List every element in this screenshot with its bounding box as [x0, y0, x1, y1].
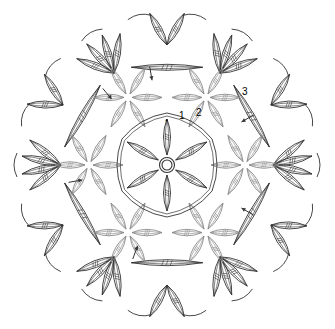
round-3-petal [213, 257, 221, 297]
center-ring [160, 158, 175, 173]
round-3-petal [65, 183, 101, 245]
crochet-diagram: 1 2 3 * [0, 0, 335, 329]
round-3-petal [30, 140, 61, 165]
round-2-petal [189, 236, 204, 262]
round-3-chain-loop [317, 153, 320, 177]
round-3-chain-loop [21, 204, 29, 227]
round-1-petal [127, 170, 158, 188]
round-2-petal [228, 168, 243, 194]
round-3-petal [131, 64, 202, 70]
round-3-chain-loop [304, 104, 312, 127]
round-2-petal [228, 136, 243, 162]
round-2-petal [91, 136, 106, 162]
start-arrow-icon [241, 208, 253, 215]
round-3-petal [102, 257, 114, 295]
round-3-joining-fan [131, 260, 202, 317]
round-3-chain-loop [183, 14, 207, 20]
round-3-chain-loop [45, 58, 61, 76]
round-3-petal [27, 101, 63, 108]
round-3-petal [65, 85, 101, 147]
round-2-petal [111, 203, 126, 229]
round-2-petal [210, 94, 240, 101]
round-3-petal [131, 260, 202, 266]
round-3-chain-loop [21, 104, 29, 127]
round-label-2: 2 [196, 107, 202, 118]
round-3-petal [102, 35, 114, 73]
start-arrow-icon [241, 115, 253, 122]
round-3-joining-fan [27, 74, 100, 147]
start-marker: * [165, 117, 168, 126]
round-1-petal [127, 142, 158, 160]
round-3-petal [271, 225, 290, 256]
round-2-petal [189, 203, 204, 229]
round-1-petal [176, 170, 207, 188]
round-2-petal [247, 168, 262, 194]
round-2-petal [72, 136, 87, 162]
round-1-petal [164, 175, 171, 211]
round-2-clusters [55, 68, 279, 262]
round-3-petal [167, 13, 184, 45]
round-3-petal [27, 222, 63, 229]
round-3-chain-loop [128, 14, 152, 20]
round-3-petal [220, 35, 232, 73]
round-3-chain-loop [232, 289, 253, 301]
round-3-petal [167, 285, 184, 317]
round-2-petal [94, 229, 124, 236]
round-3-petal [30, 165, 61, 190]
round-3-joining-fan [131, 13, 202, 70]
round-3-joining-fan [27, 183, 100, 256]
round-1-petal [176, 142, 207, 160]
round-2-petal [172, 94, 202, 101]
round-3-chain-loop [273, 58, 289, 76]
round-2-petal [130, 68, 145, 94]
round-label-1: 1 [179, 110, 185, 121]
round-2-petal [210, 229, 240, 236]
round-2-petal [189, 68, 204, 94]
round-3-joining-fan [234, 183, 307, 256]
round-3-chain-loop [128, 310, 152, 316]
round-2-petal [132, 229, 162, 236]
ring-inner [162, 160, 172, 170]
round-2-cluster [172, 203, 240, 262]
round-1-chain [212, 139, 217, 191]
round-3-chain-loop [82, 289, 103, 301]
round-3-chain-loop [304, 204, 312, 227]
round-3-chain-loop [45, 253, 61, 271]
round-3-petal [273, 165, 304, 190]
round-2-petal [208, 101, 223, 127]
round-3-chain-loop [183, 310, 207, 316]
round-3-petal [44, 74, 63, 105]
round-2-petal [93, 162, 123, 169]
round-3-petal [271, 222, 307, 229]
round-3-petal [273, 140, 304, 165]
round-2-petal [91, 168, 106, 194]
round-2-petal [130, 101, 145, 127]
round-2-petal [132, 94, 162, 101]
round-3-petal [150, 285, 167, 317]
round-2-petal [111, 101, 126, 127]
round-1-petals [117, 113, 217, 217]
round-3-chain-loop [82, 29, 103, 41]
round-label-3: 3 [242, 86, 248, 97]
round-3-chain-loop [232, 29, 253, 41]
round-2-petal [247, 136, 262, 162]
round-2-petal [208, 203, 223, 229]
round-3-petal [271, 74, 290, 105]
round-3-petal [113, 34, 121, 74]
round-3-clusters [14, 13, 320, 316]
round-1-chain [117, 139, 122, 191]
round-2-petal [130, 203, 145, 229]
round-3-petal [44, 225, 63, 256]
round-2-petal [172, 229, 202, 236]
round-3-petal [150, 13, 167, 45]
round-3-petal [220, 257, 232, 295]
round-2-cluster [94, 203, 162, 262]
round-3-chain-loop [273, 253, 289, 271]
round-3-chain-loop [14, 153, 17, 177]
round-2-petal [211, 162, 241, 169]
round-3-petal [271, 101, 307, 108]
